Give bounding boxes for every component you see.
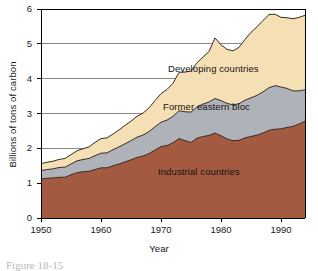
- x-tick-label-1950: 1950: [21, 224, 61, 235]
- y-tick-label-5: 5: [14, 38, 32, 49]
- x-tick-label-1960: 1960: [81, 224, 121, 235]
- x-tick-label-1970: 1970: [141, 224, 181, 235]
- y-tick-label-6: 6: [14, 3, 32, 14]
- x-axis-title: Year: [0, 243, 318, 254]
- area-series-group: [41, 14, 305, 218]
- y-tick-label-0: 0: [14, 212, 32, 223]
- figure-caption: Figure 18-15: [6, 259, 312, 271]
- x-tick-label-1990: 1990: [261, 224, 301, 235]
- series-label-industrial-countries: Industrial countries: [158, 166, 240, 177]
- series-label-former-eastern-bloc: Former eastern bloc: [163, 101, 250, 112]
- x-tick-label-1980: 1980: [201, 224, 241, 235]
- series-label-developing-countries: Developing countries: [168, 63, 259, 74]
- y-axis-title: Billions of tons of carbon: [7, 50, 18, 180]
